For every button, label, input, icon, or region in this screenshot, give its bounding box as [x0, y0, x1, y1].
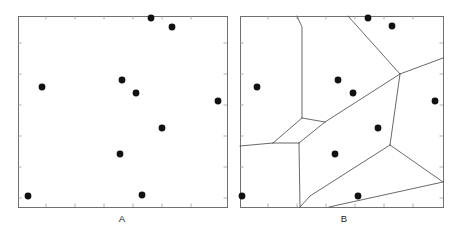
site-point [39, 84, 46, 91]
site-point [389, 23, 396, 30]
panel-a: A [18, 15, 228, 224]
panel-b: B [239, 15, 444, 224]
site-point [254, 84, 261, 91]
voronoi-edge [400, 58, 443, 74]
panel-b-label: B [341, 213, 347, 224]
voronoi-edge [273, 118, 302, 143]
site-point [432, 98, 439, 105]
site-point [365, 15, 372, 22]
voronoi-figure: A B [0, 0, 462, 234]
panel-a-label: A [119, 213, 126, 224]
voronoi-edge [240, 143, 273, 146]
site-point [139, 192, 146, 199]
site-point [133, 90, 140, 97]
site-point [332, 151, 339, 158]
site-point [119, 77, 126, 84]
site-point [25, 193, 32, 200]
site-point [350, 90, 357, 97]
site-point [215, 98, 222, 105]
site-point [148, 15, 155, 22]
panel-b-frame [241, 17, 444, 208]
panel-b-points [239, 15, 439, 200]
voronoi-edge [390, 74, 400, 145]
voronoi-edge [300, 196, 310, 207]
site-point [375, 125, 382, 132]
panel-a-ticks [18, 16, 227, 207]
voronoi-edge [297, 16, 302, 118]
voronoi-edge [302, 118, 325, 122]
voronoi-edge [299, 143, 300, 207]
voronoi-edge [329, 182, 443, 207]
panel-a-points [25, 15, 222, 200]
site-point [169, 24, 176, 31]
panel-a-frame [19, 17, 228, 208]
voronoi-edge [299, 122, 325, 143]
panel-b-voronoi-edges [240, 16, 443, 207]
site-point [355, 193, 362, 200]
voronoi-edge [310, 145, 390, 196]
voronoi-edge [390, 145, 443, 182]
site-point [117, 151, 124, 158]
site-point [159, 125, 166, 132]
figure-canvas: A B [0, 0, 462, 234]
site-point [335, 77, 342, 84]
site-point [239, 193, 246, 200]
